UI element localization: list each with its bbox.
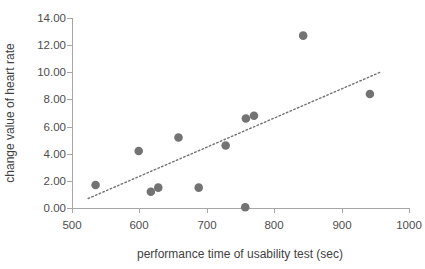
data-point xyxy=(221,141,230,150)
trend-line xyxy=(88,72,380,198)
data-point xyxy=(147,187,156,196)
data-point xyxy=(242,114,251,123)
data-point xyxy=(91,181,100,190)
y-axis-title: change value of heart rate xyxy=(3,43,17,183)
x-tick-label-900: 900 xyxy=(332,219,351,231)
x-axis-tick-marks xyxy=(72,208,409,213)
y-tick-label-14: 14.00 xyxy=(37,12,66,24)
data-point xyxy=(134,147,143,156)
data-point xyxy=(194,183,203,192)
scatter-chart-figure: 14.00 12.00 10.00 8.00 6.00 4.00 2.00 0.… xyxy=(0,0,425,269)
y-tick-label-6: 6.00 xyxy=(44,121,66,133)
x-tick-label-600: 600 xyxy=(129,219,148,231)
y-tick-label-4: 4.00 xyxy=(44,148,66,160)
y-tick-label-10: 10.00 xyxy=(37,66,66,78)
data-points-layer xyxy=(91,31,374,211)
y-axis-tick-marks xyxy=(67,18,72,208)
y-tick-label-12: 12.00 xyxy=(37,39,66,51)
x-tick-label-1000: 1000 xyxy=(396,219,422,231)
data-point xyxy=(299,31,308,40)
data-point xyxy=(250,111,259,120)
data-point xyxy=(241,203,250,212)
y-tick-label-0: 0.00 xyxy=(44,202,66,214)
y-axis-tick-labels: 14.00 12.00 10.00 8.00 6.00 4.00 2.00 0.… xyxy=(37,12,66,214)
data-point xyxy=(154,183,163,192)
x-axis-title: performance time of usability test (sec) xyxy=(137,247,343,261)
x-tick-label-700: 700 xyxy=(197,219,216,231)
data-point xyxy=(366,90,375,99)
y-tick-label-8: 8.00 xyxy=(44,93,66,105)
x-tick-label-800: 800 xyxy=(264,219,283,231)
x-tick-label-500: 500 xyxy=(62,219,81,231)
x-axis-tick-labels: 500 600 700 800 900 1000 xyxy=(62,219,421,231)
chart-canvas: 14.00 12.00 10.00 8.00 6.00 4.00 2.00 0.… xyxy=(0,0,425,269)
data-point xyxy=(174,133,183,142)
y-tick-label-2: 2.00 xyxy=(44,175,66,187)
